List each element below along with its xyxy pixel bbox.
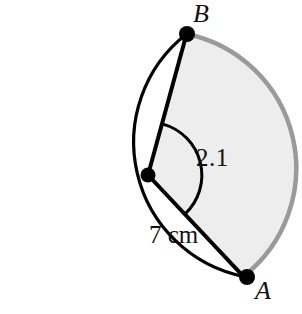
circle-sector-figure (0, 0, 302, 314)
point-a-label: A (255, 278, 271, 304)
radius-value-label: 7 cm (149, 222, 198, 247)
center-point-dot (141, 168, 156, 183)
point-a-dot (239, 269, 255, 285)
point-b-label: B (193, 1, 209, 27)
geometry-diagram: B A 2.1 7 cm (0, 0, 302, 314)
angle-value-label: 2.1 (196, 145, 229, 170)
point-b-dot (179, 26, 195, 42)
